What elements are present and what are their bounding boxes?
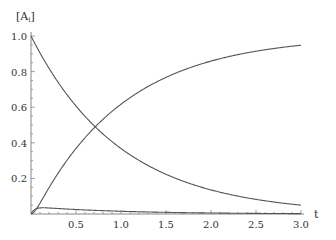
curve-c [31,45,301,214]
x-tick-label: 2.0 [203,219,219,230]
curve-a [31,36,301,205]
curves [31,36,301,214]
x-tick-label: 1.0 [113,219,129,230]
x-axis-label: t [314,208,319,221]
y-tick-label: 0.6 [11,102,27,113]
x-tick-label: 2.5 [248,219,264,230]
y-tick-label: 0.2 [11,173,27,184]
y-tick-label: 0.8 [11,67,27,78]
x-tick-label: 1.5 [158,219,174,230]
chart: 0.51.01.52.02.53.00.20.40.60.81.0 [Ai] t [0,0,336,240]
y-axis-label: [Ai] [16,10,35,24]
x-tick-label: 0.5 [68,219,84,230]
y-tick-label: 0.4 [11,138,27,149]
y-tick-label: 1.0 [11,31,27,42]
x-tick-label: 3.0 [293,219,309,230]
